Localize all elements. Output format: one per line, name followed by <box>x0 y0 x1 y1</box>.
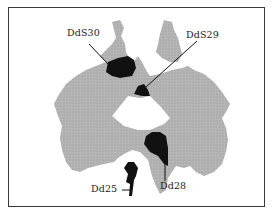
label-dd25: Dd25 <box>91 183 117 194</box>
inkblot-figure <box>0 0 273 215</box>
label-dd28: Dd28 <box>160 180 186 191</box>
region-dd25 <box>124 162 138 196</box>
label-dds30: DdS30 <box>67 27 100 38</box>
main-blot-body <box>54 56 230 194</box>
label-dds29: DdS29 <box>186 29 219 40</box>
upper-right-lobe <box>156 20 182 62</box>
